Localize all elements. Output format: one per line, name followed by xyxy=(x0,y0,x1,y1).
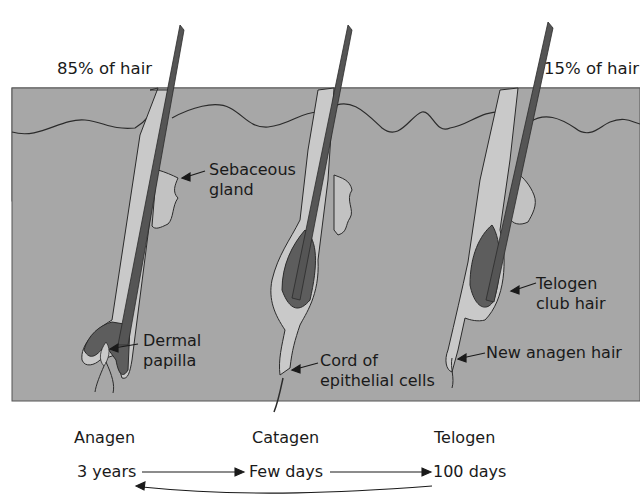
duration-anagen: 3 years xyxy=(77,462,136,481)
callout-sebaceous-line2: gland xyxy=(209,180,254,199)
phase-telogen: Telogen xyxy=(434,428,495,447)
phase-anagen: Anagen xyxy=(74,428,135,447)
callout-telogen-club-line2: club hair xyxy=(536,294,606,313)
phase-catagen: Catagen xyxy=(252,428,319,447)
callout-cord-line2: epithelial cells xyxy=(320,371,435,390)
callout-cord-line1: Cord of xyxy=(320,351,378,370)
callout-telogen-club-line1: Telogen xyxy=(536,274,597,293)
callout-new-anagen-hair: New anagen hair xyxy=(486,343,622,362)
callout-dermal-line2: papilla xyxy=(143,351,196,370)
callout-dermal-line1: Dermal xyxy=(143,331,201,350)
duration-telogen: 100 days xyxy=(433,462,506,481)
label-15-percent: 15% of hair xyxy=(544,59,639,78)
duration-catagen: Few days xyxy=(249,462,323,481)
callout-sebaceous-line1: Sebaceous xyxy=(209,160,296,179)
label-85-percent: 85% of hair xyxy=(57,59,152,78)
